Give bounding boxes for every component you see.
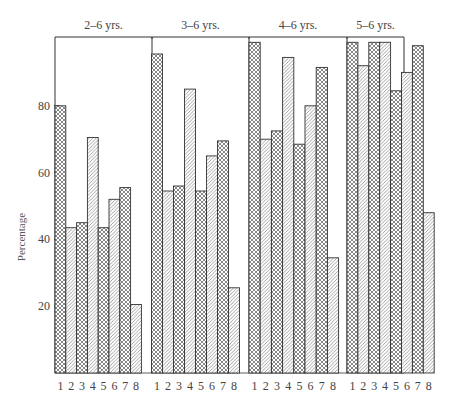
bar-6 (305, 106, 316, 373)
bar-6 (109, 199, 120, 373)
bar-2 (66, 228, 77, 373)
x-tick-label: 7 (319, 379, 325, 393)
x-tick-label: 3 (371, 379, 377, 393)
x-tick-label: 4 (382, 379, 388, 393)
x-tick-label: 7 (220, 379, 226, 393)
x-tick-label: 4 (187, 379, 193, 393)
bar-7 (120, 188, 131, 373)
x-tick-label: 2 (68, 379, 74, 393)
x-tick-label: 6 (308, 379, 314, 393)
bar-8 (229, 288, 240, 373)
bar-3 (174, 186, 185, 373)
y-tick-label: 80 (38, 99, 50, 113)
bar-6 (402, 72, 413, 373)
panel-4: 5–6 yrs.12345678 (347, 18, 434, 393)
x-tick-label: 6 (404, 379, 410, 393)
y-tick-label: 60 (38, 166, 50, 180)
y-tick-label: 40 (38, 232, 50, 246)
bar-3 (369, 42, 380, 373)
bar-1 (152, 54, 163, 373)
bar-4 (380, 42, 391, 373)
panel-title: 2–6 yrs. (84, 18, 123, 32)
panel-2: 3–6 yrs.12345678 (152, 18, 250, 393)
x-tick-label: 3 (79, 379, 85, 393)
bar-5 (196, 191, 207, 373)
x-tick-label: 5 (198, 379, 204, 393)
bar-5 (391, 91, 402, 373)
x-tick-label: 2 (263, 379, 269, 393)
bar-2 (358, 66, 369, 373)
bar-1 (55, 106, 66, 373)
bar-8 (327, 258, 338, 373)
x-tick-label: 8 (231, 379, 237, 393)
x-tick-label: 1 (57, 379, 63, 393)
x-tick-label: 3 (176, 379, 182, 393)
bar-5 (294, 144, 305, 373)
x-tick-label: 5 (393, 379, 399, 393)
x-tick-label: 1 (154, 379, 160, 393)
x-tick-label: 8 (133, 379, 139, 393)
x-tick-label: 3 (274, 379, 280, 393)
x-tick-label: 6 (111, 379, 117, 393)
panel-3: 4–6 yrs.12345678 (249, 18, 347, 393)
x-tick-label: 5 (101, 379, 107, 393)
bar-1 (249, 42, 260, 373)
bar-6 (207, 156, 218, 373)
bar-3 (271, 131, 282, 373)
x-tick-label: 1 (252, 379, 258, 393)
bar-7 (316, 67, 327, 373)
bar-5 (98, 228, 109, 373)
bar-4 (87, 138, 98, 374)
x-tick-label: 8 (330, 379, 336, 393)
x-tick-label: 4 (90, 379, 96, 393)
x-tick-label: 1 (349, 379, 355, 393)
bar-1 (347, 42, 358, 373)
y-axis-label: Percentage (15, 213, 27, 261)
bar-4 (185, 89, 196, 373)
x-tick-label: 7 (122, 379, 128, 393)
bar-8 (423, 213, 434, 373)
panel-title: 5–6 yrs. (356, 18, 395, 32)
panel-title: 3–6 yrs. (181, 18, 220, 32)
bar-3 (77, 223, 88, 373)
bar-8 (131, 305, 142, 374)
bar-4 (283, 57, 294, 373)
x-tick-label: 2 (165, 379, 171, 393)
x-tick-label: 6 (209, 379, 215, 393)
bar-7 (218, 141, 229, 373)
y-tick-label: 20 (38, 299, 50, 313)
x-tick-label: 2 (360, 379, 366, 393)
bar-7 (412, 46, 423, 373)
bar-2 (260, 139, 271, 373)
bar-chart: 20406080 2–6 yrs.123456783–6 yrs.1234567… (0, 0, 454, 399)
panel-1: 2–6 yrs.12345678 (55, 18, 152, 393)
x-tick-label: 7 (415, 379, 421, 393)
x-tick-label: 5 (296, 379, 302, 393)
x-tick-label: 4 (285, 379, 291, 393)
x-tick-label: 8 (426, 379, 432, 393)
panel-title: 4–6 yrs. (279, 18, 318, 32)
panels: 2–6 yrs.123456783–6 yrs.123456784–6 yrs.… (55, 18, 434, 393)
bar-2 (163, 191, 174, 373)
